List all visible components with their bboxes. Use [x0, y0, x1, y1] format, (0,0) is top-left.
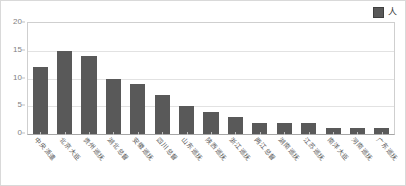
x-axis-label-slot: 四川总督: [150, 135, 174, 185]
bar-slot: [370, 23, 394, 134]
chart-legend: 人: [373, 5, 397, 19]
y-axis-tick-mark: [22, 105, 25, 106]
bar-slot: [272, 23, 296, 134]
x-axis-tick-mark: [333, 132, 334, 135]
bar[interactable]: [106, 79, 121, 135]
x-axis-label-slot: 浙江巡抚: [223, 135, 247, 185]
bar-slot: [321, 23, 345, 134]
x-axis-tick-mark: [260, 132, 261, 135]
x-axis-tick-mark: [211, 132, 212, 135]
x-axis-label-slot: 广东巡抚: [370, 135, 394, 185]
x-axis-tick-mark: [138, 132, 139, 135]
x-axis-label-slot: 陕西巡抚: [199, 135, 223, 185]
bar-slot: [199, 23, 223, 134]
x-axis-tick-mark: [284, 132, 285, 135]
y-axis-tick-label: 20: [13, 18, 22, 26]
bar-slot: [296, 23, 320, 134]
x-axis-tick-mark: [65, 132, 66, 135]
bar[interactable]: [130, 84, 145, 134]
x-axis-label-slot: 湖南巡抚: [272, 135, 296, 185]
bar-series: [28, 23, 394, 134]
y-axis-tick-mark: [22, 133, 25, 134]
y-axis-tick-mark: [22, 49, 25, 50]
x-axis-tick-mark: [357, 132, 358, 135]
bar[interactable]: [155, 95, 170, 134]
bar-slot: [150, 23, 174, 134]
x-axis-tick-mark: [382, 132, 383, 135]
x-axis-tick-mark: [162, 132, 163, 135]
x-axis-labels: 中央派遣北京大臣贵州巡抚湖北总督安徽巡抚四川总督山东巡抚陕西巡抚浙江巡抚两江总督…: [28, 135, 394, 185]
x-axis-tick-mark: [235, 132, 236, 135]
x-axis-label-slot: 南洋大臣: [321, 135, 345, 185]
x-axis-label-slot: 两江总督: [248, 135, 272, 185]
x-axis-tick-mark: [40, 132, 41, 135]
legend-swatch-icon: [373, 7, 384, 18]
y-axis-tick-label: 10: [13, 74, 22, 82]
x-axis-label-slot: 河南巡抚: [345, 135, 369, 185]
y-axis-tick-mark: [22, 77, 25, 78]
bar-chart-figure: 人 05101520 中央派遣北京大臣贵州巡抚湖北总督安徽巡抚四川总督山东巡抚陕…: [0, 0, 406, 186]
x-axis-tick-mark: [89, 132, 90, 135]
bar[interactable]: [57, 51, 72, 134]
bar[interactable]: [81, 56, 96, 134]
bar-slot: [174, 23, 198, 134]
bar-slot: [77, 23, 101, 134]
x-axis-label-slot: 山东巡抚: [174, 135, 198, 185]
legend-label: 人: [388, 8, 397, 17]
bar-slot: [345, 23, 369, 134]
y-axis-tick-mark: [22, 22, 25, 23]
y-axis: 05101520: [1, 22, 25, 135]
bar-slot: [52, 23, 76, 134]
x-axis-tick-mark: [113, 132, 114, 135]
bar-slot: [28, 23, 52, 134]
x-axis-label-slot: 江苏巡抚: [296, 135, 320, 185]
bar-slot: [101, 23, 125, 134]
bar[interactable]: [203, 112, 218, 134]
x-axis-label-slot: 北京大臣: [52, 135, 76, 185]
bar[interactable]: [179, 106, 194, 134]
y-axis-tick-label: 15: [13, 46, 22, 54]
x-axis-tick-label: 广东巡抚: [375, 137, 398, 162]
x-axis-label-slot: 中央派遣: [28, 135, 52, 185]
bar-slot: [248, 23, 272, 134]
x-axis-label-slot: 安徽巡抚: [126, 135, 150, 185]
x-axis-tick-mark: [309, 132, 310, 135]
bar-slot: [126, 23, 150, 134]
bar-slot: [223, 23, 247, 134]
x-axis-label-slot: 贵州巡抚: [77, 135, 101, 185]
x-axis-tick-mark: [187, 132, 188, 135]
x-axis-label-slot: 湖北总督: [101, 135, 125, 185]
bar[interactable]: [33, 67, 48, 134]
